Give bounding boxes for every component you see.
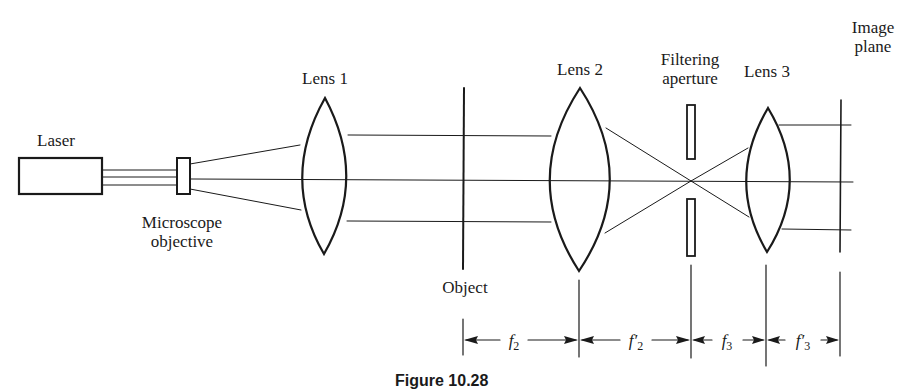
figure-caption: Figure 10.28 [395,372,488,390]
filtering-aperture-label-line1: Filtering [635,50,745,69]
object-label: Object [430,278,500,297]
image-plane [840,100,841,252]
image-plane-label-line1: Image [843,18,903,37]
filtering-aperture-label: Filtering aperture [635,50,745,88]
dimension-f2: f2 [498,331,530,356]
optical-axis [190,179,853,182]
dimension-f3: f3 [711,331,743,356]
dimension-f2-prime: f′2 [618,331,654,356]
microscope-objective-label-line1: Microscope [122,213,242,232]
microscope-objective-label: Microscope objective [122,213,242,251]
dimension-f3-prime: f′3 [785,331,821,356]
aperture-top [687,105,695,159]
filtering-aperture-label-line2: aperture [635,69,745,88]
lens-1-label: Lens 1 [290,69,360,88]
image-plane-label-line2: plane [843,37,903,56]
lens-2-label: Lens 2 [545,60,615,79]
microscope-objective-label-line2: objective [122,232,242,251]
laser-label: Laser [26,131,86,150]
lens-1 [302,98,346,254]
lens-3 [746,108,790,252]
image-plane-label: Image plane [843,18,903,56]
object-plane [463,88,464,269]
aperture-bottom [687,199,695,256]
laser-box [19,158,102,194]
microscope-objective [177,158,190,194]
lens-3-label: Lens 3 [732,62,802,81]
lens-2 [550,88,610,271]
